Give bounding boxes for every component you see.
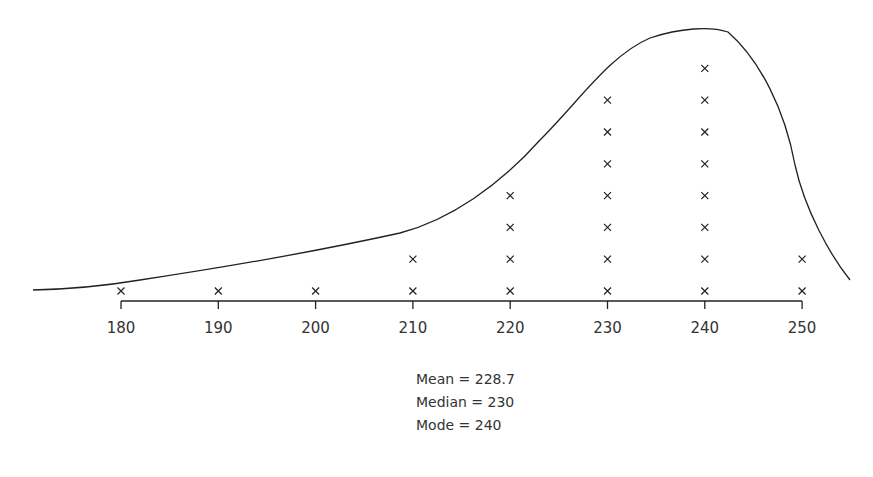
x-marker xyxy=(409,288,416,295)
mode-label: Mode = 240 xyxy=(416,414,515,437)
x-tick-label: 230 xyxy=(593,319,622,337)
x-marker xyxy=(604,288,611,295)
x-marker xyxy=(215,288,222,295)
data-points xyxy=(118,65,806,295)
x-tick-label: 210 xyxy=(399,319,428,337)
x-marker xyxy=(604,192,611,199)
x-marker xyxy=(604,129,611,136)
x-tick-label: 250 xyxy=(788,319,817,337)
x-marker xyxy=(799,288,806,295)
x-marker xyxy=(604,160,611,167)
x-marker xyxy=(799,256,806,263)
x-marker xyxy=(507,256,514,263)
x-marker xyxy=(701,256,708,263)
x-marker xyxy=(604,256,611,263)
x-tick-label: 220 xyxy=(496,319,525,337)
x-marker xyxy=(701,65,708,72)
mean-label: Mean = 228.7 xyxy=(416,368,515,391)
x-marker xyxy=(701,192,708,199)
median-label: Median = 230 xyxy=(416,391,515,414)
x-marker xyxy=(507,192,514,199)
frequency-curve xyxy=(33,29,850,290)
x-tick-label: 180 xyxy=(107,319,136,337)
x-axis-ticks: 180190200210220230240250 xyxy=(107,301,817,337)
x-marker xyxy=(118,288,125,295)
dot-plot: 180190200210220230240250 xyxy=(0,0,873,360)
x-tick-label: 240 xyxy=(690,319,719,337)
x-tick-label: 200 xyxy=(301,319,330,337)
x-marker xyxy=(507,288,514,295)
x-marker xyxy=(701,160,708,167)
x-marker xyxy=(701,129,708,136)
summary-statistics: Mean = 228.7 Median = 230 Mode = 240 xyxy=(416,368,515,437)
x-marker xyxy=(604,224,611,231)
x-marker xyxy=(409,256,416,263)
x-marker xyxy=(701,224,708,231)
x-marker xyxy=(701,288,708,295)
x-tick-label: 190 xyxy=(204,319,233,337)
x-marker xyxy=(604,97,611,104)
x-marker xyxy=(507,224,514,231)
x-marker xyxy=(701,97,708,104)
x-marker xyxy=(312,288,319,295)
